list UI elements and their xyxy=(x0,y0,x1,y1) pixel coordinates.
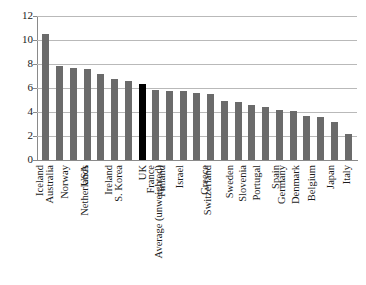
x-axis-labels: IcelandAustraliaNorwayUSANetherlandsIrel… xyxy=(37,163,357,281)
plot-area xyxy=(37,16,357,160)
x-tick-label: S. Korea xyxy=(114,165,125,202)
bar-chart: 024681012 IcelandAustraliaNorwayUSANethe… xyxy=(0,0,366,285)
bar-slot xyxy=(149,16,163,160)
bar-series xyxy=(37,16,357,160)
x-label-slot: Italy xyxy=(341,163,355,281)
y-axis-labels: 024681012 xyxy=(0,16,33,161)
bar[interactable] xyxy=(303,116,310,160)
x-tick-label: Average (unweighted) xyxy=(154,165,165,258)
bar-slot xyxy=(314,16,328,160)
bar-slot xyxy=(259,16,273,160)
bar-slot xyxy=(300,16,314,160)
bar-slot xyxy=(66,16,80,160)
bar-slot xyxy=(39,16,53,160)
y-tick-label: 12 xyxy=(22,10,33,21)
x-tick-label: Netherlands xyxy=(79,165,90,216)
bar[interactable] xyxy=(180,91,187,160)
bar-slot xyxy=(80,16,94,160)
x-tick-label: Japan xyxy=(326,165,337,189)
bar-slot xyxy=(204,16,218,160)
bar[interactable] xyxy=(221,101,228,160)
y-tick-label: 10 xyxy=(22,34,33,45)
bar-slot xyxy=(286,16,300,160)
bar[interactable] xyxy=(262,107,269,160)
x-label-slot: Japan xyxy=(327,163,341,281)
bar-slot xyxy=(272,16,286,160)
bar[interactable] xyxy=(207,94,214,160)
bar[interactable] xyxy=(125,81,132,160)
bar[interactable] xyxy=(111,79,118,160)
bar[interactable] xyxy=(290,111,297,160)
x-tick-label: Switzerland xyxy=(203,165,214,215)
bar[interactable] xyxy=(70,68,77,160)
bar[interactable] xyxy=(193,93,200,160)
x-label-slot: S. Korea xyxy=(121,163,135,281)
bar-slot xyxy=(341,16,355,160)
x-tick-label: Sweden xyxy=(226,165,237,198)
bar-slot xyxy=(245,16,259,160)
x-tick-label: Australia xyxy=(44,165,55,204)
x-tick-label: Norway xyxy=(60,165,71,199)
bar-slot xyxy=(190,16,204,160)
bar[interactable] xyxy=(345,134,352,160)
bar[interactable] xyxy=(248,105,255,160)
x-tick-label: Belgium xyxy=(306,165,317,201)
x-tick-label: Slovenia xyxy=(238,165,249,202)
x-label-slot: Israel xyxy=(176,163,190,281)
bar-slot xyxy=(218,16,232,160)
bar-slot xyxy=(176,16,190,160)
bar-slot xyxy=(231,16,245,160)
bar[interactable] xyxy=(317,117,324,160)
x-tick-label: Portugal xyxy=(252,165,263,201)
x-tick-label: Denmark xyxy=(291,165,302,204)
bar[interactable] xyxy=(97,74,104,160)
x-tick-label: Germany xyxy=(278,165,289,204)
bar[interactable] xyxy=(166,91,173,160)
bar-slot xyxy=(121,16,135,160)
bar[interactable] xyxy=(235,102,242,160)
bar[interactable] xyxy=(139,84,146,160)
bar[interactable] xyxy=(56,66,63,160)
bar-slot xyxy=(108,16,122,160)
bar[interactable] xyxy=(42,34,49,160)
bar[interactable] xyxy=(331,122,338,160)
bar[interactable] xyxy=(152,90,159,160)
x-axis-line xyxy=(37,160,358,161)
x-tick-label: Italy xyxy=(342,165,353,184)
bar-slot xyxy=(163,16,177,160)
bar[interactable] xyxy=(276,110,283,160)
bar-slot xyxy=(94,16,108,160)
x-tick-label: Israel xyxy=(176,165,187,188)
bar-slot xyxy=(135,16,149,160)
bar-slot xyxy=(53,16,67,160)
bar-slot xyxy=(327,16,341,160)
bar[interactable] xyxy=(84,69,91,160)
